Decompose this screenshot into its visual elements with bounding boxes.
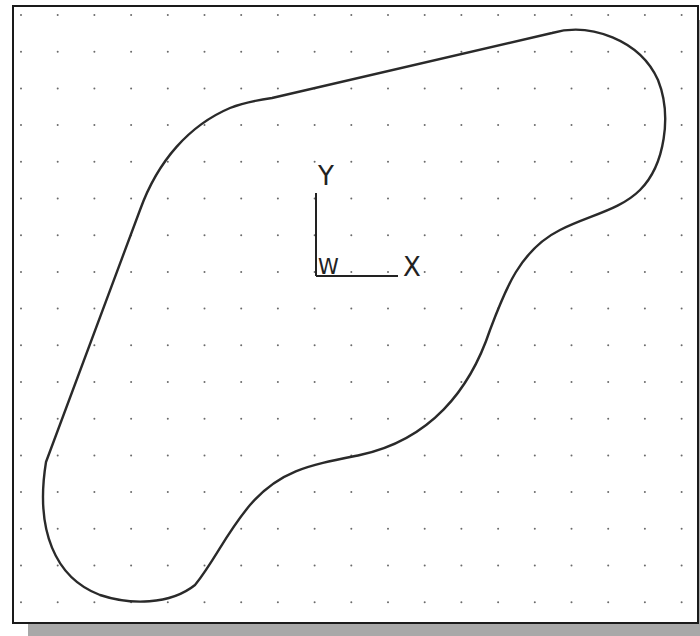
drawing-canvas[interactable]: Y W X [0,0,700,636]
ucs-w-label: W [318,255,339,279]
grid-dots [20,14,683,603]
ucs-x-label: X [403,252,421,282]
ucs-y-label: Y [317,161,334,191]
sketch-profile-outline[interactable] [43,30,665,602]
ucs-icon: Y W X [316,161,421,282]
